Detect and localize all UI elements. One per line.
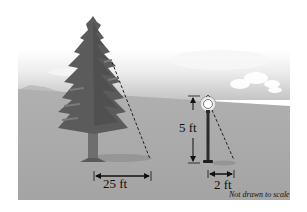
diagram-scene [0, 0, 307, 212]
tree-shadow-label: 25 ft [103, 176, 127, 192]
scale-note: Not drawn to scale [229, 190, 290, 199]
post-shadow [212, 161, 236, 166]
post-height-label: 5 ft [179, 120, 197, 136]
ground [18, 89, 290, 200]
